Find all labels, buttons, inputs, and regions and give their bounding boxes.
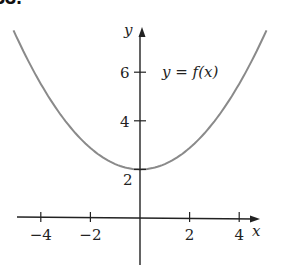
x-tick-label: −2 [79,226,101,244]
x-axis-label: x [252,222,261,240]
y-tick-label: 6 [120,64,130,82]
y-tick-label: 4 [120,113,130,131]
x-tick-label: 4 [234,226,244,244]
x-axis [17,217,255,219]
problem-number: 33. [0,0,22,8]
x-tick-label: −4 [30,226,52,244]
y-axis-arrow-icon [139,27,146,37]
y-axis-label: y [123,21,133,39]
y-ticks: 246 [120,64,146,189]
function-graph: 33. x y −4−224 246 y = f(x) [0,0,283,275]
curve-label: y = f(x) [161,63,218,81]
x-tick-label: 2 [185,226,195,244]
y-tick-label: 2 [123,171,133,189]
